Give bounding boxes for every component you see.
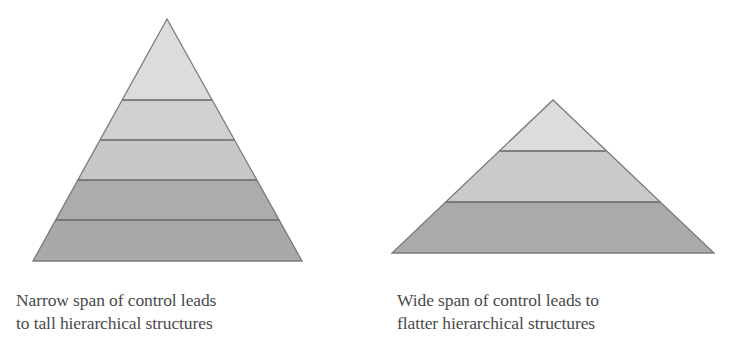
pyramid-level-5 bbox=[33, 220, 302, 261]
pyramid-level-2 bbox=[446, 151, 661, 202]
pyramid-level-2 bbox=[100, 100, 235, 140]
caption-line: Narrow span of control leads bbox=[16, 289, 216, 312]
pyramid-level-1 bbox=[122, 19, 212, 100]
caption-line: to tall hierarchical structures bbox=[16, 312, 216, 335]
flat-hierarchy-caption: Wide span of control leads to flatter hi… bbox=[397, 289, 599, 335]
span-of-control-figure: Narrow span of control leads to tall hie… bbox=[0, 0, 736, 360]
tall-hierarchy-pyramid bbox=[33, 19, 302, 261]
pyramid-level-3 bbox=[78, 140, 257, 180]
pyramid-level-1 bbox=[499, 100, 606, 151]
flat-hierarchy-pyramid bbox=[392, 100, 714, 253]
pyramid-level-4 bbox=[56, 180, 279, 220]
pyramid-level-3 bbox=[392, 202, 714, 253]
caption-line: flatter hierarchical structures bbox=[397, 312, 599, 335]
caption-line: Wide span of control leads to bbox=[397, 289, 599, 312]
tall-hierarchy-caption: Narrow span of control leads to tall hie… bbox=[16, 289, 216, 335]
